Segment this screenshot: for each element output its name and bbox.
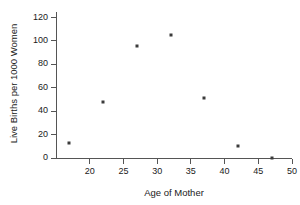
data-point (169, 34, 172, 37)
data-point (270, 157, 273, 160)
x-axis-tick-label: 25 (118, 167, 128, 176)
y-axis-tick-label: 20 (38, 130, 48, 139)
x-axis-tick (157, 159, 158, 164)
x-axis-line (56, 158, 292, 159)
x-axis-title: Age of Mother (56, 187, 292, 198)
x-axis-tick (292, 159, 293, 164)
x-axis-tick-label: 45 (253, 167, 263, 176)
y-axis-tick-label: 0 (43, 153, 48, 162)
plot-area (56, 12, 292, 158)
x-axis-tick (123, 159, 124, 164)
x-axis-tick (258, 159, 259, 164)
data-point (203, 97, 206, 100)
x-axis-tick (190, 159, 191, 164)
scatter-chart: 020406080100120 20253035404550 Age of Mo… (0, 0, 300, 205)
data-point (237, 145, 240, 148)
x-axis-tick-label: 20 (85, 167, 95, 176)
y-axis-tick-label: 60 (38, 83, 48, 92)
y-axis-tick-label: 100 (33, 36, 48, 45)
x-axis-tick-label: 35 (186, 167, 196, 176)
data-point (68, 141, 71, 144)
data-point (102, 100, 105, 103)
x-axis-tick-label: 30 (152, 167, 162, 176)
y-axis-tick-label: 40 (38, 106, 48, 115)
x-axis-tick (224, 159, 225, 164)
y-axis-title: Live Births per 1000 Women (8, 9, 19, 159)
y-axis-tick-label: 80 (38, 59, 48, 68)
x-axis-tick-label: 40 (220, 167, 230, 176)
y-axis-tick-label: 120 (33, 13, 48, 22)
x-axis-tick (89, 159, 90, 164)
data-point (135, 44, 138, 47)
x-axis-tick-label: 50 (287, 167, 297, 176)
